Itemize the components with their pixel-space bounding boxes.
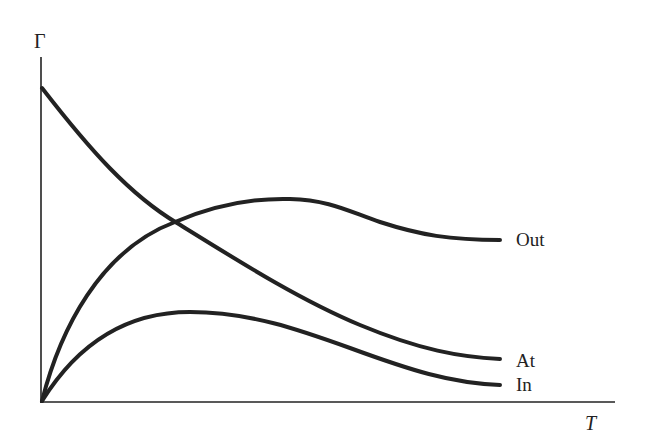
plot-area — [0, 0, 656, 439]
y-axis-label: Γ — [34, 30, 46, 53]
curve-at — [42, 88, 500, 359]
label-in: In — [516, 374, 532, 396]
curve-out — [42, 199, 500, 401]
x-axis-label: T — [585, 412, 596, 435]
label-at: At — [516, 350, 535, 372]
curve-in — [42, 312, 500, 401]
label-out: Out — [516, 229, 545, 251]
chart: Γ T Out At In — [0, 0, 656, 439]
